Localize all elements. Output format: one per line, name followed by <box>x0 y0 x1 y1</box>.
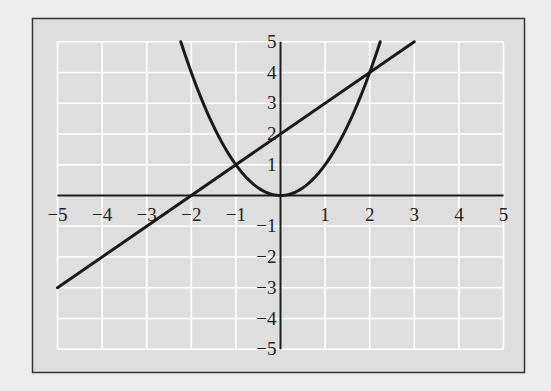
y-tick-label: 3 <box>267 92 277 113</box>
x-tick-label: 1 <box>320 204 330 225</box>
x-tick-label: −1 <box>226 204 246 225</box>
y-tick-label: −1 <box>256 215 276 236</box>
x-tick-label: −5 <box>47 204 67 225</box>
x-tick-label: 4 <box>454 204 464 225</box>
plot-svg: −5−4−3−2−112345 54321−1−2−3−4−5 <box>0 0 551 391</box>
y-tick-label: −5 <box>256 338 276 359</box>
x-tick-label: 5 <box>499 204 509 225</box>
x-tick-label: 2 <box>365 204 375 225</box>
x-tick-label: −2 <box>181 204 201 225</box>
y-tick-label: 4 <box>267 62 277 83</box>
chart: −5−4−3−2−112345 54321−1−2−3−4−5 <box>0 0 551 391</box>
y-tick-label: 1 <box>267 154 277 175</box>
y-tick-label: 5 <box>267 31 277 52</box>
y-tick-label: −3 <box>256 277 276 298</box>
y-tick-label: −2 <box>256 246 276 267</box>
x-tick-label: 3 <box>410 204 420 225</box>
x-tick-label: −4 <box>92 204 113 225</box>
y-tick-label: −4 <box>256 308 277 329</box>
